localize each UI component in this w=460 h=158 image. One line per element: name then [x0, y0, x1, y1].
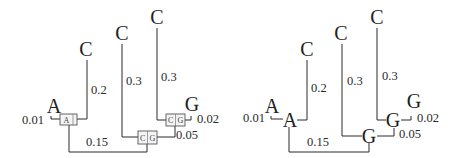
svg-text:C: C: [140, 134, 145, 143]
node-box-cg-lower: C G: [138, 131, 157, 144]
branch-inner-cg: [157, 126, 175, 137]
branch-g-leaf: [185, 116, 191, 120]
branch-length-c2: 0.3: [347, 74, 363, 88]
leaf-label-g: G: [407, 90, 421, 112]
branch-length-c1: 0.2: [311, 81, 327, 95]
leaf-label-c2: C: [115, 22, 128, 44]
branch-c1: [297, 60, 307, 120]
branch-length-a: 0.01: [243, 111, 265, 125]
leaf-label-c3: C: [150, 6, 163, 28]
internal-node-g-lower: G: [362, 125, 376, 147]
branch-length-a: 0.01: [22, 113, 44, 127]
node-box-cg-upper: C G: [166, 114, 185, 126]
branch-root: [289, 127, 369, 152]
left-tree: A C G C G C C C G A 0.01 0.2 0.3 0.3 0.0…: [22, 6, 219, 152]
svg-text:A: A: [64, 116, 70, 125]
internal-node-a: A: [283, 109, 298, 131]
branch-g-leaf: [401, 116, 411, 120]
branch-length-c3: 0.3: [161, 70, 177, 84]
branch-length-root: 0.15: [307, 135, 329, 149]
branch-c2: [342, 44, 362, 136]
leaf-label-c3: C: [370, 6, 383, 28]
leaf-label-c1: C: [300, 38, 313, 60]
branch-length-c3: 0.3: [382, 69, 398, 83]
branch-length-g: 0.02: [417, 111, 439, 125]
leaf-label-a: A: [47, 95, 62, 117]
branch-length-root: 0.15: [86, 135, 108, 149]
svg-text:G: G: [149, 134, 155, 143]
leaf-label-c1: C: [79, 38, 92, 60]
branch-c1: [77, 60, 87, 119]
branch-length-inner-cg: 0.05: [176, 128, 198, 142]
branch-length-c1: 0.2: [91, 83, 107, 97]
branch-length-c2: 0.3: [126, 74, 142, 88]
leaf-label-c2: C: [334, 22, 347, 44]
right-tree: A G G C C C G A 0.01 0.2 0.3 0.3 0.02 0.…: [243, 6, 439, 152]
branch-root: [69, 125, 147, 152]
branch-length-inner-g: 0.05: [399, 127, 421, 141]
leaf-label-a: A: [265, 95, 280, 117]
svg-text:C: C: [168, 116, 173, 125]
svg-text:G: G: [177, 116, 183, 125]
node-box-a: A: [60, 114, 77, 125]
branch-length-g: 0.02: [197, 112, 219, 126]
phylogenetic-trees-diagram: A C G C G C C C G A 0.01 0.2 0.3 0.3 0.0…: [0, 0, 460, 158]
branch-c2: [122, 44, 138, 137]
